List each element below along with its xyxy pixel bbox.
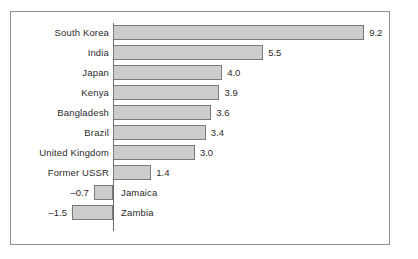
- bar-row: South Korea9.2: [11, 23, 391, 43]
- chart-figure: South Korea9.2India5.5Japan4.0Kenya3.9Ba…: [0, 0, 418, 259]
- value-label: 3.4: [211, 123, 224, 143]
- bar-row: –0.7Jamaica: [11, 183, 391, 203]
- bar: [113, 165, 151, 180]
- value-label: 1.4: [156, 163, 169, 183]
- value-label: 4.0: [227, 63, 240, 83]
- bar-row: Brazil3.4: [11, 123, 391, 143]
- bar: [72, 205, 113, 220]
- category-label: Brazil: [84, 123, 109, 143]
- bar: [113, 25, 364, 40]
- bar: [113, 125, 206, 140]
- bar-row: Kenya3.9: [11, 83, 391, 103]
- bar-row: Former USSR1.4: [11, 163, 391, 183]
- bar-row: Bangladesh3.6: [11, 103, 391, 123]
- category-label: South Korea: [55, 23, 109, 43]
- bar: [113, 145, 195, 160]
- category-label: Jamaica: [121, 183, 157, 203]
- category-label: Japan: [82, 63, 109, 83]
- bar: [113, 65, 222, 80]
- category-label: India: [88, 43, 109, 63]
- value-label: 9.2: [369, 23, 382, 43]
- value-label: –1.5: [49, 203, 68, 223]
- bar: [113, 85, 219, 100]
- chart-frame: South Korea9.2India5.5Japan4.0Kenya3.9Ba…: [10, 11, 390, 245]
- value-label: 3.6: [216, 103, 229, 123]
- bar-row: Japan4.0: [11, 63, 391, 83]
- value-label: 5.5: [268, 43, 281, 63]
- value-label: 3.0: [200, 143, 213, 163]
- category-label: Zambia: [121, 203, 154, 223]
- bar: [113, 105, 211, 120]
- category-label: Bangladesh: [57, 103, 109, 123]
- category-label: Former USSR: [48, 163, 109, 183]
- category-label: Kenya: [81, 83, 109, 103]
- bar-row: United Kingdom3.0: [11, 143, 391, 163]
- bar: [113, 45, 263, 60]
- value-label: –0.7: [70, 183, 89, 203]
- category-label: United Kingdom: [39, 143, 109, 163]
- bar-row: –1.5Zambia: [11, 203, 391, 223]
- bar: [94, 185, 113, 200]
- bar-row: India5.5: [11, 43, 391, 63]
- value-label: 3.9: [224, 83, 237, 103]
- plot-area: South Korea9.2India5.5Japan4.0Kenya3.9Ba…: [11, 12, 391, 246]
